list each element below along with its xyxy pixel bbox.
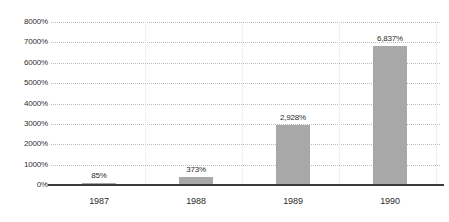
x-axis-baseline	[48, 184, 444, 186]
y-axis-tick-label: 4000%	[0, 100, 48, 108]
bar-value-label-1989: 2,928%	[258, 114, 328, 122]
bar-value-label-1990: 6,837%	[355, 35, 425, 43]
x-axis-label-1989: 1989	[258, 196, 328, 206]
y-axis-tick-label: 5000%	[0, 79, 48, 87]
y-axis-tick-label: 8000%	[0, 18, 48, 26]
x-axis-label-1987: 1987	[64, 196, 134, 206]
x-axis-category-labels: 1987 1988 1989 1990	[51, 196, 440, 212]
bar-1989	[276, 125, 310, 185]
vertical-gridline	[242, 22, 243, 185]
x-axis-label-1988: 1988	[161, 196, 231, 206]
y-axis-tick-label: 2000%	[0, 140, 48, 148]
vertical-gridline	[436, 22, 437, 185]
bar-value-label-1987: 85%	[64, 172, 134, 180]
vertical-gridline	[339, 22, 340, 185]
x-axis-label-1990: 1990	[355, 196, 425, 206]
y-axis-tick-label: 7000%	[0, 38, 48, 46]
bar-1990	[373, 46, 407, 185]
gridline-8000	[51, 22, 440, 23]
y-axis-tick-labels: 8000% 7000% 6000% 5000% 4000% 3000% 2000…	[0, 22, 48, 185]
y-axis-tick-label: 1000%	[0, 161, 48, 169]
y-axis-tick-label: 3000%	[0, 120, 48, 128]
vertical-gridline	[145, 22, 146, 185]
bar-chart: 8000% 7000% 6000% 5000% 4000% 3000% 2000…	[0, 0, 449, 222]
plot-area: 85% 373% 2,928% 6,837%	[51, 22, 440, 185]
y-axis-tick-label: 6000%	[0, 59, 48, 67]
bar-value-label-1988: 373%	[161, 166, 231, 174]
y-axis-tick-label: 0%	[0, 181, 48, 189]
